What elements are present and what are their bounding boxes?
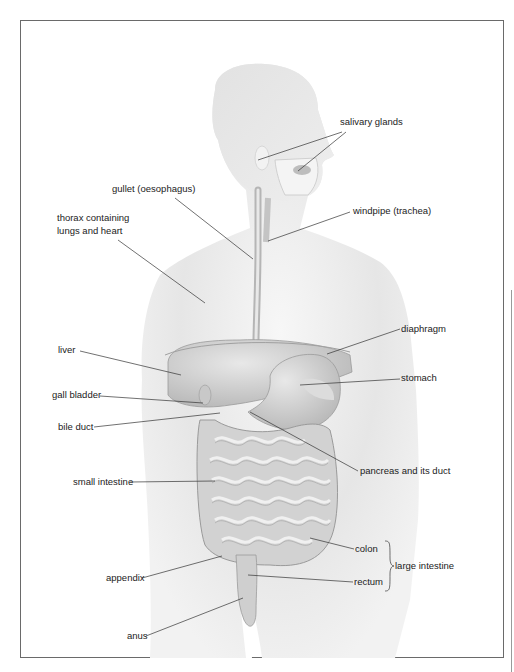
label-large-intestine: large intestine <box>395 560 454 572</box>
label-bile-duct: bile duct <box>58 421 93 433</box>
label-salivary-glands: salivary glands <box>340 116 403 128</box>
label-appendix: appendix <box>106 572 145 584</box>
label-gall-bladder: gall bladder <box>52 389 101 401</box>
label-rectum: rectum <box>354 576 383 588</box>
label-small-intestine: small intestine <box>73 476 133 488</box>
label-thorax-line2: lungs and heart <box>57 225 123 237</box>
label-diaphragm: diaphragm <box>401 323 446 335</box>
label-thorax-line1: thorax containing <box>57 212 129 224</box>
label-liver: liver <box>58 344 75 356</box>
label-stomach: stomach <box>401 372 437 384</box>
label-gullet: gullet (oesophagus) <box>112 183 195 195</box>
label-anus: anus <box>127 630 148 642</box>
label-windpipe: windpipe (trachea) <box>353 205 431 217</box>
label-colon: colon <box>355 543 378 555</box>
label-pancreas: pancreas and its duct <box>360 465 450 477</box>
